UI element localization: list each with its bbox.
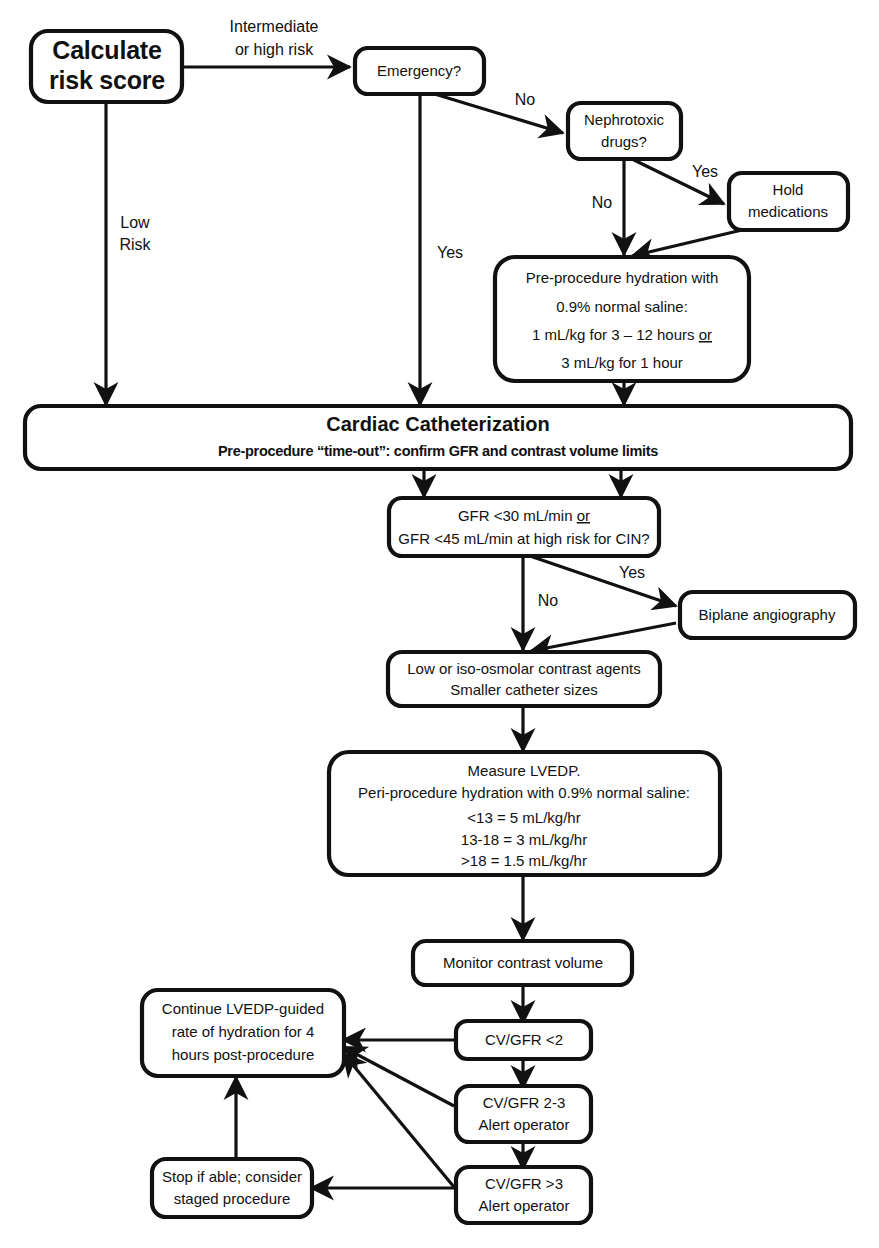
- node-biplane-angiography: Biplane angiography: [680, 592, 855, 638]
- node-gfr-decision-line2: GFR <45 mL/min at high risk for CIN?: [398, 530, 649, 547]
- node-continue-lvedp-hydration-line2: rate of hydration for 4: [172, 1023, 315, 1040]
- node-biplane-angiography-label: Biplane angiography: [699, 606, 836, 623]
- node-continue-lvedp-hydration: Continue LVEDP-guided rate of hydration …: [142, 990, 344, 1076]
- node-nephrotoxic-drugs-line2: drugs?: [601, 133, 647, 150]
- node-cvgfr-2-to-3-line2: Alert operator: [479, 1116, 570, 1133]
- edge-label-intermediate-high-risk-line2: or high risk: [235, 41, 314, 58]
- flowchart-svg: Calculate risk score Emergency? Nephroto…: [0, 0, 879, 1248]
- node-measure-lvedp-line4: 13-18 = 3 mL/kg/hr: [461, 831, 587, 848]
- node-measure-lvedp: Measure LVEDP. Peri-procedure hydration …: [329, 752, 720, 875]
- node-measure-lvedp-line5: >18 = 1.5 mL/kg/hr: [461, 852, 587, 869]
- edge-label-emergency-yes: Yes: [437, 244, 463, 261]
- edge-biplane-to-contrast: [531, 623, 676, 651]
- node-gfr-decision: GFR <30 mL/min or GFR <45 mL/min at high…: [389, 498, 659, 556]
- node-cardiac-catheterization: Cardiac Catheterization Pre-procedure “t…: [25, 406, 851, 469]
- edge-hold-to-hydration: [632, 230, 742, 256]
- node-cvgfr-2-to-3-line1: CV/GFR 2-3: [483, 1094, 566, 1111]
- node-measure-lvedp-line3: <13 = 5 mL/kg/hr: [467, 809, 580, 826]
- edge-cvgfr-2-3-to-continue: [343, 1047, 454, 1106]
- node-nephrotoxic-drugs-line1: Nephrotoxic: [584, 111, 665, 128]
- edge-label-gfr-yes: Yes: [619, 564, 645, 581]
- node-cvgfr-greater-than-3-line2: Alert operator: [479, 1197, 570, 1214]
- node-emergency-label: Emergency?: [377, 62, 461, 79]
- node-hold-medications-line2: medications: [748, 203, 828, 220]
- node-emergency: Emergency?: [355, 48, 484, 94]
- node-cardiac-catheterization-title: Cardiac Catheterization: [326, 413, 549, 435]
- node-gfr-decision-line1: GFR <30 mL/min or: [458, 507, 590, 524]
- node-cvgfr-greater-than-3-line1: CV/GFR >3: [485, 1175, 563, 1192]
- node-nephrotoxic-drugs: Nephrotoxic drugs?: [568, 103, 681, 159]
- node-stop-if-able: Stop if able; consider staged procedure: [152, 1159, 312, 1217]
- node-cvgfr-less-than-2-label: CV/GFR <2: [485, 1031, 563, 1048]
- edge-label-nephrotoxic-yes: Yes: [692, 163, 718, 180]
- node-pre-procedure-hydration-line1: Pre-procedure hydration with: [526, 269, 719, 286]
- node-calculate-risk-score: Calculate risk score: [31, 31, 182, 102]
- node-pre-procedure-hydration-line2: 0.9% normal saline:: [556, 298, 688, 315]
- node-monitor-contrast-volume-label: Monitor contrast volume: [443, 954, 603, 971]
- node-hold-medications: Hold medications: [729, 173, 848, 230]
- edge-label-nephrotoxic-no: No: [592, 194, 613, 211]
- node-monitor-contrast-volume: Monitor contrast volume: [413, 941, 632, 985]
- node-stop-if-able-line2: staged procedure: [174, 1190, 291, 1207]
- flowchart-canvas: Calculate risk score Emergency? Nephroto…: [0, 0, 879, 1248]
- node-continue-lvedp-hydration-line1: Continue LVEDP-guided: [162, 1000, 324, 1017]
- edge-label-emergency-no: No: [515, 91, 536, 108]
- node-cvgfr-2-to-3: CV/GFR 2-3 Alert operator: [456, 1086, 591, 1142]
- edge-label-gfr-no: No: [538, 592, 559, 609]
- edge-emergency-no-to-nephrotoxic: [428, 92, 563, 133]
- edge-label-low-risk-line1: Low: [120, 214, 150, 231]
- node-measure-lvedp-line2: Peri-procedure hydration with 0.9% norma…: [358, 784, 690, 801]
- edge-cvgfr-gt3-to-continue: [343, 1053, 454, 1187]
- node-cardiac-catheterization-subtitle: Pre-procedure “time-out”: confirm GFR an…: [218, 443, 658, 459]
- node-measure-lvedp-line1: Measure LVEDP.: [468, 762, 581, 779]
- node-calculate-risk-score-line1: Calculate: [52, 36, 162, 64]
- node-cvgfr-less-than-2: CV/GFR <2: [456, 1021, 591, 1059]
- node-continue-lvedp-hydration-line3: hours post-procedure: [172, 1046, 315, 1063]
- node-contrast-agents-line2: Smaller catheter sizes: [450, 681, 598, 698]
- edge-label-low-risk-line2: Risk: [119, 236, 151, 253]
- node-hold-medications-line1: Hold: [773, 181, 804, 198]
- node-pre-procedure-hydration: Pre-procedure hydration with 0.9% normal…: [495, 257, 749, 381]
- node-pre-procedure-hydration-line3: 1 mL/kg for 3 – 12 hours or: [532, 326, 712, 343]
- edge-label-intermediate-high-risk-line1: Intermediate: [230, 18, 319, 35]
- node-pre-procedure-hydration-line4: 3 mL/kg for 1 hour: [561, 354, 683, 371]
- node-contrast-agents: Low or iso-osmolar contrast agents Small…: [388, 652, 660, 706]
- node-contrast-agents-line1: Low or iso-osmolar contrast agents: [407, 660, 640, 677]
- node-stop-if-able-line1: Stop if able; consider: [162, 1168, 302, 1185]
- node-calculate-risk-score-line2: risk score: [49, 66, 165, 94]
- node-cvgfr-greater-than-3: CV/GFR >3 Alert operator: [456, 1167, 591, 1223]
